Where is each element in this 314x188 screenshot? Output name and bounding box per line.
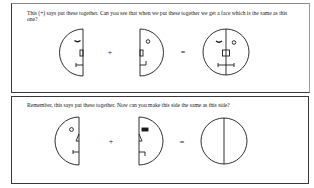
eye-icon bbox=[142, 128, 148, 131]
plus-operator: + bbox=[108, 48, 113, 57]
nose-icon bbox=[140, 50, 143, 56]
mouth-icon bbox=[140, 61, 146, 65]
mouth-icon bbox=[139, 152, 145, 156]
eyebrow-icon bbox=[75, 41, 81, 42]
left-half-face-1 bbox=[60, 29, 83, 76]
eye-icon bbox=[70, 128, 74, 132]
empty-face-2 bbox=[201, 118, 247, 164]
eye-icon bbox=[232, 41, 236, 45]
face-puzzle-figures: + = + bbox=[0, 0, 314, 188]
left-half-face-2 bbox=[55, 117, 79, 165]
plus-operator: + bbox=[109, 137, 114, 146]
equals-operator: = bbox=[181, 48, 186, 57]
full-face-1 bbox=[203, 29, 249, 75]
right-half-face-2 bbox=[139, 117, 163, 165]
mouth-icon bbox=[76, 63, 83, 67]
nose-icon bbox=[80, 50, 83, 56]
eyebrow-icon bbox=[216, 41, 222, 42]
right-half-face-1 bbox=[140, 29, 163, 76]
mouth-icon bbox=[73, 150, 79, 154]
equals-operator: = bbox=[180, 138, 185, 147]
eye-icon bbox=[146, 40, 150, 44]
